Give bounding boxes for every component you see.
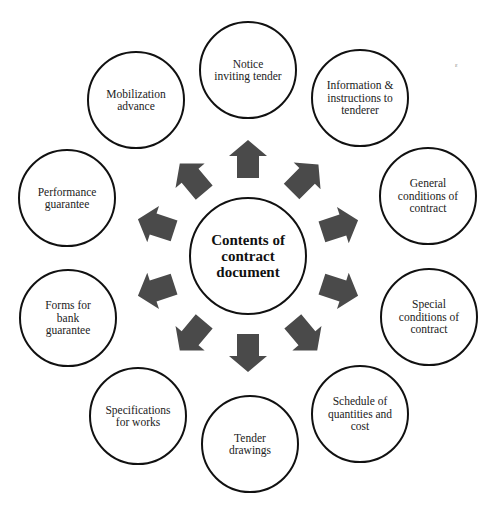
node-label: Performance guarantee: [38, 186, 97, 211]
node-mobilization: Mobilization advance: [87, 51, 185, 149]
node-forms: Forms for bank guarantee: [19, 269, 117, 367]
arrow-to-mobilization-icon: [165, 151, 219, 205]
node-performance: Performance guarantee: [18, 149, 116, 247]
node-specifications: Specifications for works: [89, 367, 187, 465]
node-label: Specifications for works: [105, 404, 170, 429]
node-label: Special conditions of contract: [399, 298, 459, 336]
arrow-to-general-icon: [316, 202, 364, 250]
node-label: Tender drawings: [229, 432, 271, 457]
contract-contents-diagram: Contents of contract document Notice inv…: [0, 0, 500, 511]
arrow-to-tender-drawings-icon: [229, 334, 267, 372]
stray-mark: ε: [455, 62, 458, 68]
node-special: Special conditions of contract: [380, 268, 478, 366]
node-information: Information & instructions to tenderer: [311, 49, 409, 147]
node-label: Notice inviting tender: [214, 58, 281, 83]
node-label: Mobilization advance: [106, 88, 165, 113]
center-node-contents-of-contract-document: Contents of contract document: [189, 197, 307, 315]
node-notice: Notice inviting tender: [199, 21, 297, 119]
arrow-to-performance-icon: [132, 201, 180, 249]
arrow-to-notice-icon: [229, 140, 267, 178]
arrow-to-specifications-icon: [165, 309, 219, 363]
arrow-to-special-icon: [316, 266, 364, 314]
node-schedule: Schedule of quantities and cost: [311, 365, 409, 463]
arrow-to-forms-icon: [132, 266, 180, 314]
arrow-to-schedule-icon: [278, 309, 332, 363]
node-general: General conditions of contract: [379, 147, 477, 245]
node-label: General conditions of contract: [398, 177, 458, 215]
arrow-to-information-icon: [278, 151, 332, 205]
center-node-label: Contents of contract document: [211, 232, 285, 280]
node-label: Information & instructions to tenderer: [327, 79, 394, 117]
node-label: Forms for bank guarantee: [45, 299, 91, 337]
node-label: Schedule of quantities and cost: [328, 395, 392, 433]
node-tender-drawings: Tender drawings: [201, 395, 299, 493]
